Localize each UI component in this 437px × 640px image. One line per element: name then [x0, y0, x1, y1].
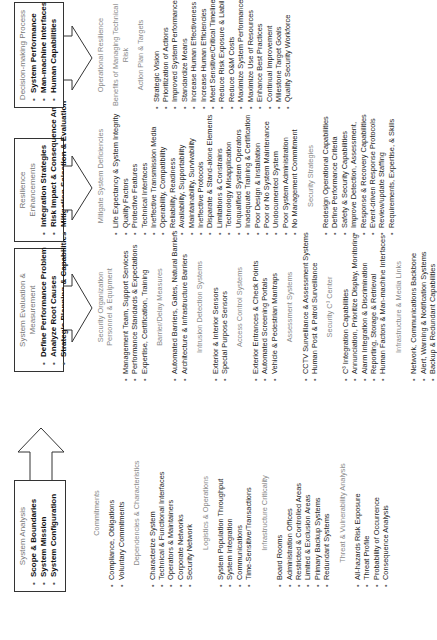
list-item: Disparate & Stand-alone Elements [205, 116, 214, 228]
arrow-right-icon [16, 420, 66, 480]
list-item: Poor or No System Maintenance [262, 116, 271, 228]
section-heading: Benefits of Managing Technical Risk [111, 0, 130, 110]
list-item: Prioritization of Actions [161, 0, 170, 102]
decision-title: Decision-making Process [18, 8, 28, 102]
stage-item: Analyze Root Causes [49, 254, 59, 357]
list-item: Limitations & Constrains [215, 116, 224, 228]
section-heading: Infrastructure Criticality [260, 438, 269, 588]
list-item: Corporate Networks [176, 438, 185, 580]
list-item: Inadequate Training & Certification [243, 116, 252, 228]
list-item: Life Expectancy & System Integrity [111, 116, 120, 228]
section-heading: Commitments [92, 438, 101, 588]
list-item: System Integration [225, 438, 234, 580]
list-item: Strategic Vision [152, 0, 161, 102]
list-item: Voluntary Commitments [117, 438, 126, 580]
section-heading: Dependencies & Characteristics [132, 438, 141, 588]
list-item: Review/update Staffing [377, 116, 386, 228]
section-heading: Operational Resilience [96, 0, 105, 110]
resilience-title: Resilience Enhancements [18, 144, 38, 236]
list-item: Automated Barriers, Gates, Natural Barri… [170, 232, 179, 374]
list-item: Maximize Use of Resources [246, 0, 255, 102]
list-item: Maximize System Performance [236, 0, 245, 102]
list-item: Reporting, Storage & Retrieval [369, 232, 378, 374]
list-item: Automated Screening Portals [260, 232, 269, 374]
list-item: Availability, Supportability [177, 116, 186, 228]
section-heading: Barrier/Delay Measures [155, 232, 164, 382]
resilience-column: Mitigate System Deficiencies Life Expect… [96, 116, 396, 236]
section-heading: Action Plan & Targets [136, 0, 145, 110]
section-subheading: Personnel & Equipment [105, 232, 114, 382]
list-item: Probability of Occurrence [372, 438, 381, 580]
list-item: Increase Human Efficiencies [199, 0, 208, 102]
list-item: Quality Security Workforce [283, 0, 292, 102]
section-heading: Intrusion Detection Systems [195, 232, 204, 382]
list-item: Alert, Warning & Notification Systems [419, 232, 428, 374]
list-item: Human Factors & Man-machine Interfaces [378, 232, 387, 374]
list-item: Management Team, Support Services [121, 232, 130, 374]
section-heading: Mitigate System Deficiencies [96, 116, 105, 236]
list-item: Exterior & Interior Sensors [211, 232, 220, 374]
list-item: Unqualified System Operators [234, 116, 243, 228]
list-item: Meet Sensitive/Critical Timelines [208, 0, 217, 102]
list-item: Vehicle & Pedestrian Mantraps [270, 232, 279, 374]
system-evaluation-title: System Evaluation & Measurement [18, 254, 38, 366]
section-heading: Security Organization [96, 232, 105, 382]
resilience-enhancements-box: Resilience Enhancements Integration Stra… [14, 138, 64, 242]
list-item: Administration Offices [285, 438, 294, 580]
section-heading: Assessment Systems [285, 232, 294, 382]
list-item: Threat Profile [362, 438, 371, 580]
list-item: Enhance Best Practices [255, 0, 264, 102]
list-item: Improve Detection, Assessment, [349, 116, 358, 228]
list-item: No Management Commitment [290, 116, 299, 228]
list-item: Protective Features [130, 116, 139, 228]
list-item: CCTV Surveillance & Assessment Systems [301, 232, 310, 374]
list-item: Exterior Entrances & Check Points [251, 232, 260, 374]
list-item: Alarm Integration & Discrimination [360, 232, 369, 374]
stage-item: System Configuration [49, 486, 59, 577]
list-item: Annunciation, Prioritize Display, Monito… [350, 232, 359, 374]
list-item: Compliance, Obligations [107, 438, 116, 580]
list-item: Human Post & Patrol Surveillance [310, 232, 319, 374]
list-item: Poor System Administration [281, 116, 290, 228]
list-item: Maintainability, Survivability [187, 116, 196, 228]
list-item: Operability, Compatibility [158, 116, 167, 228]
list-item: Milestone Target Goals [274, 0, 283, 102]
list-item: Reduce O&M Costs [227, 0, 236, 102]
list-item: C³ Integration Capabilities [341, 232, 350, 374]
stage-item: Risk Impact & Consequence Analysis [49, 144, 59, 227]
list-item: Technical & Functional Interfaces [157, 438, 166, 580]
list-item: Reduce Risk Exposure & Liability [217, 0, 226, 102]
arrow-down-icon [64, 268, 94, 348]
list-item: Define Performance Criteria [330, 116, 339, 228]
list-item: Poor Design & Installation [253, 116, 262, 228]
decision-making-box: Decision-making Process System Performan… [14, 2, 64, 108]
list-item: Ineffective Protocols [196, 116, 205, 228]
list-item: Restricted & Controlled Areas [294, 438, 303, 580]
list-item: All-hazards Risk Exposure [353, 438, 362, 580]
list-item: Characterize System [148, 438, 157, 580]
decision-column: Operational Resilience Benefits of Manag… [96, 0, 293, 110]
stage-item: Human Capabilities [49, 8, 59, 93]
section-heading: Security Strategies [306, 116, 315, 236]
list-item: Safety & Security Capabilities [340, 116, 349, 228]
list-item: Architecture & Infrastructure Barriers [180, 232, 189, 374]
list-item: Standardize Means [180, 0, 189, 102]
list-item: Performance Standards & Expectations [130, 232, 139, 374]
stage-item: Define Performance Problem [39, 254, 49, 357]
list-item: System Population Throughput [216, 438, 225, 580]
list-item: Primary Backup Systems [313, 438, 322, 580]
list-item: Increase Human Effectiveness [189, 0, 198, 102]
list-item: Operators & Maintainers [166, 438, 175, 580]
stage-item: System Performance [29, 8, 39, 93]
list-item: Expertise, Certification, Training [140, 232, 149, 374]
system-analysis-title: System Analysis [18, 486, 28, 586]
list-item: Network, Communications Backbone [409, 232, 418, 374]
list-item: Time-Sensitive/Transactions [244, 438, 253, 580]
list-item: Board Rooms [275, 438, 284, 580]
list-item: Limited & Exclusion Areas [303, 438, 312, 580]
stage-item: Man-machine Interfaces [39, 8, 49, 93]
section-heading: Infrastructure & Media Links [394, 232, 403, 382]
list-item: Quality Factors [121, 116, 130, 228]
list-item: Improved System Performance [170, 0, 179, 102]
